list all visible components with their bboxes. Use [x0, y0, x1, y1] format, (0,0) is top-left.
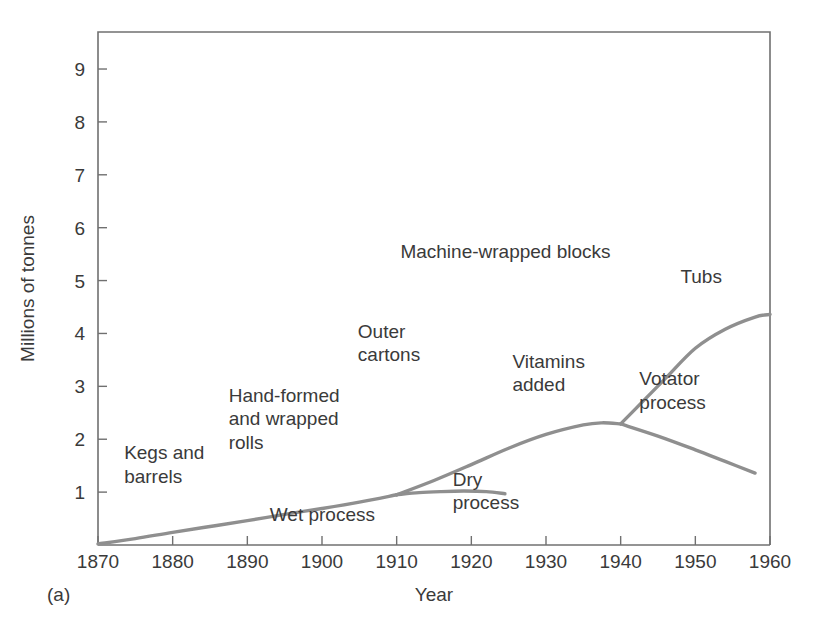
chart-annotation: Vitamins [512, 351, 585, 372]
y-tick-label: 5 [74, 271, 85, 292]
margarine-production-chart: 1870188018901900191019201930194019501960… [0, 0, 825, 641]
x-axis-tick-labels: 1870188018901900191019201930194019501960 [77, 551, 791, 572]
chart-annotation: and wrapped [229, 408, 339, 429]
data-curves [98, 314, 770, 544]
y-axis-title: Millions of tonnes [17, 215, 38, 362]
data-curve [397, 423, 621, 495]
x-tick-label: 1930 [525, 551, 567, 572]
chart-annotation: Dry [453, 469, 483, 490]
chart-annotation: Hand-formed [229, 385, 340, 406]
chart-annotation: Machine-wrapped blocks [400, 241, 610, 262]
y-tick-label: 8 [74, 112, 85, 133]
chart-annotation: rolls [229, 432, 264, 453]
panel-label: (a) [47, 584, 70, 605]
x-tick-label: 1960 [749, 551, 791, 572]
chart-annotation: added [512, 374, 565, 395]
x-tick-label: 1910 [376, 551, 418, 572]
x-tick-label: 1870 [77, 551, 119, 572]
chart-annotation: Wet process [270, 504, 375, 525]
chart-annotation: Tubs [680, 266, 722, 287]
y-tick-label: 7 [74, 165, 85, 186]
x-tick-label: 1920 [450, 551, 492, 572]
curve-annotations: Kegs andbarrelsHand-formedand wrappedrol… [124, 241, 722, 524]
chart-annotation: process [639, 392, 706, 413]
chart-annotation: cartons [358, 344, 420, 365]
y-tick-label: 9 [74, 59, 85, 80]
y-tick-label: 6 [74, 218, 85, 239]
y-tick-label: 4 [74, 323, 85, 344]
chart-annotation: barrels [124, 466, 182, 487]
y-axis-tick-labels: 123456789 [74, 59, 85, 503]
y-tick-label: 2 [74, 429, 85, 450]
x-tick-label: 1940 [600, 551, 642, 572]
data-curve [621, 424, 755, 473]
x-tick-label: 1950 [674, 551, 716, 572]
chart-annotation: Votator [639, 368, 700, 389]
y-tick-label: 1 [74, 482, 85, 503]
chart-annotation: process [453, 492, 520, 513]
x-axis-ticks [98, 536, 770, 545]
x-tick-label: 1900 [301, 551, 343, 572]
x-tick-label: 1890 [226, 551, 268, 572]
chart-annotation: Outer [358, 321, 406, 342]
x-tick-label: 1880 [152, 551, 194, 572]
figure-container: 1870188018901900191019201930194019501960… [0, 0, 825, 641]
x-axis-title: Year [415, 584, 454, 605]
chart-annotation: Kegs and [124, 442, 204, 463]
plot-frame [98, 32, 770, 545]
y-tick-label: 3 [74, 376, 85, 397]
y-axis-ticks [98, 69, 107, 492]
